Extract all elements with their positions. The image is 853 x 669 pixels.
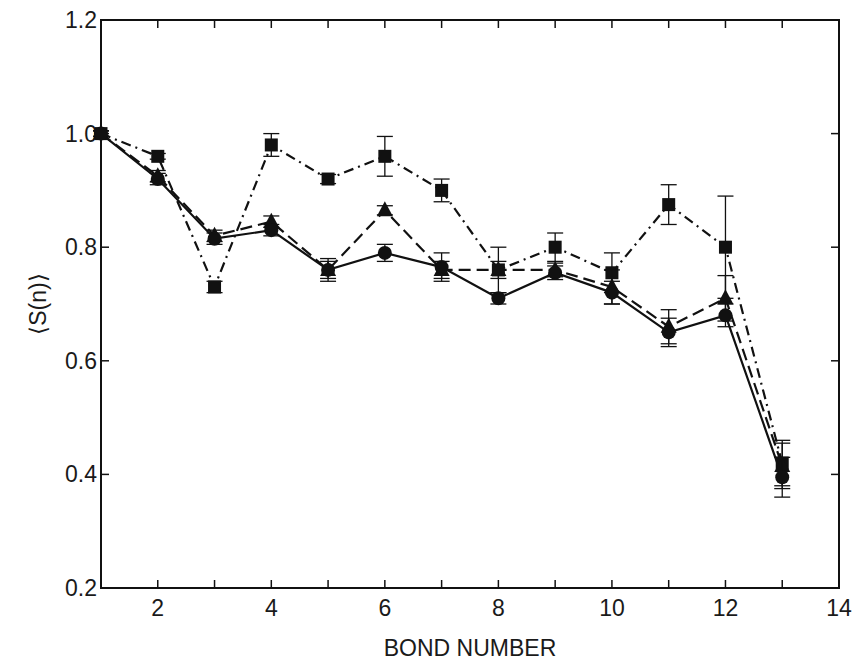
square-marker [549, 241, 562, 254]
circle-marker [321, 263, 335, 277]
circle-marker [662, 325, 676, 339]
square-marker [151, 150, 164, 163]
square-marker [378, 150, 391, 163]
y-tick-label: 0.6 [65, 348, 97, 374]
square-marker [435, 184, 448, 197]
triangle-marker [717, 289, 733, 304]
square-marker [322, 173, 335, 186]
circle-marker [94, 127, 108, 141]
series-square [93, 127, 790, 486]
x-tick-label: 10 [599, 595, 625, 621]
square-marker [265, 138, 278, 151]
triangle-marker [377, 201, 393, 216]
x-tick-label: 12 [713, 595, 739, 621]
circle-marker [775, 470, 789, 484]
x-axis-title: BOND NUMBER [384, 635, 557, 661]
circle-marker [264, 223, 278, 237]
x-tick-label: 4 [265, 595, 278, 621]
circle-marker [435, 260, 449, 274]
x-tick-label: 2 [151, 595, 164, 621]
circle-marker [718, 308, 732, 322]
y-tick-label: 0.2 [65, 575, 97, 601]
line-chart: 2468101214 0.20.40.60.81.01.2 BOND NUMBE… [0, 0, 853, 669]
circle-marker [548, 266, 562, 280]
y-tick-label: 0.4 [65, 461, 97, 487]
x-axis-ticks: 2468101214 [151, 20, 852, 621]
y-tick-label: 1.2 [65, 7, 97, 33]
circle-marker [605, 286, 619, 300]
y-axis-title: ⟨S(n)⟩ [25, 273, 51, 334]
square-marker [208, 280, 221, 293]
series-layer [93, 125, 790, 498]
y-tick-label: 1.0 [65, 121, 97, 147]
x-tick-label: 14 [826, 595, 852, 621]
square-marker [662, 198, 675, 211]
circle-marker [208, 232, 222, 246]
x-tick-label: 8 [492, 595, 505, 621]
circle-marker [378, 246, 392, 260]
x-tick-label: 6 [378, 595, 391, 621]
circle-marker [151, 172, 165, 186]
y-tick-label: 0.8 [65, 234, 97, 260]
square-marker [719, 241, 732, 254]
circle-marker [491, 291, 505, 305]
